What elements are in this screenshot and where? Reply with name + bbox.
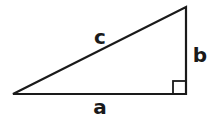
right-angle-marker (173, 81, 186, 94)
vertical-leg-label: b (193, 43, 207, 67)
triangle-outline (13, 7, 186, 94)
hypotenuse-label: c (94, 25, 106, 49)
horizontal-leg-label: a (93, 95, 107, 119)
right-triangle-diagram: c b a (0, 0, 216, 123)
